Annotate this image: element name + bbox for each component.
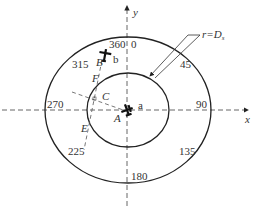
bearing-315: 315 <box>72 58 89 70</box>
point-a-label: A <box>113 112 121 124</box>
y-axis-label: y <box>132 6 138 18</box>
bearing-180: 180 <box>131 170 148 182</box>
bearing-360: 360 <box>109 38 126 50</box>
point-b-label: B <box>96 56 103 68</box>
bearing-90: 90 <box>196 98 208 110</box>
line-ca <box>72 92 126 111</box>
bearing-0: 0 <box>131 38 137 50</box>
aircraft-a-label: a <box>138 99 143 111</box>
bearing-225: 225 <box>68 145 85 157</box>
bearing-135: 135 <box>179 145 196 157</box>
point-c-label: C <box>102 90 110 102</box>
bearing-270: 270 <box>47 98 64 110</box>
point-e-label: E <box>80 122 88 134</box>
aircraft-b-label: b <box>113 53 119 65</box>
diagram: x y r=Ds a A b B F C E 360 0 45 90 135 1… <box>0 0 258 211</box>
pointer-line-2 <box>155 35 200 78</box>
x-axis-label: x <box>244 113 250 125</box>
bearing-45: 45 <box>180 58 192 70</box>
radius-label: r=Ds <box>202 28 225 42</box>
point-f-label: F <box>91 72 99 84</box>
